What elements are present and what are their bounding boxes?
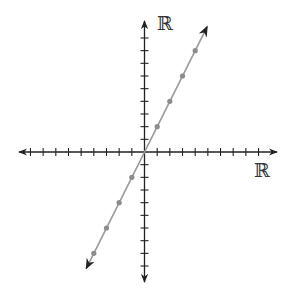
function-graph: ℝ ℝ: [0, 0, 289, 297]
marked-point: [167, 99, 172, 104]
marked-point: [91, 251, 96, 256]
coordinate-plane: [0, 0, 289, 297]
marked-point: [117, 200, 122, 205]
marked-point: [155, 124, 160, 129]
marked-point: [193, 48, 198, 53]
y-axis-label: ℝ: [157, 14, 173, 33]
marked-point: [180, 73, 185, 78]
x-axis-label: ℝ: [254, 161, 270, 180]
marked-point: [129, 175, 134, 180]
marked-point: [104, 225, 109, 230]
